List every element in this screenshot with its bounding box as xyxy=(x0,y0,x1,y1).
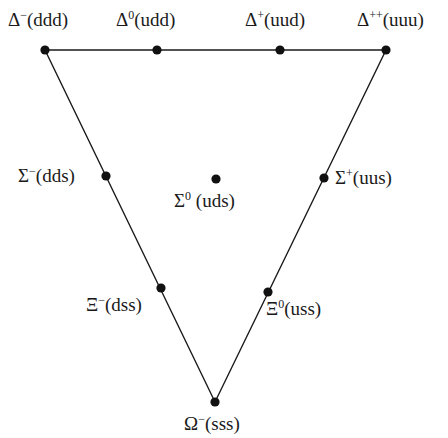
particle-quarks: (dds) xyxy=(36,165,75,187)
delta-plus-label: Δ+(uud) xyxy=(245,8,305,31)
particle-symbol: Δ xyxy=(357,9,369,30)
particle-quarks: (ddd) xyxy=(27,9,68,31)
delta-plusplus-point xyxy=(381,45,390,54)
omega-minus-label: Ω−(sss) xyxy=(184,412,240,435)
particle-quarks: (uuu) xyxy=(383,9,424,31)
particle-symbol: Ω xyxy=(184,413,198,434)
particle-symbol: Σ xyxy=(174,190,185,211)
particle-symbol: Ξ xyxy=(266,298,278,319)
particle-quarks: (uus) xyxy=(353,167,392,189)
particle-charge: ++ xyxy=(369,8,383,22)
particle-symbol: Δ xyxy=(116,9,128,30)
delta-plusplus-label: Δ++(uuu) xyxy=(357,8,424,31)
delta-minus-point xyxy=(40,45,49,54)
xi-zero-label: Ξ0(uss) xyxy=(266,297,321,320)
particle-symbol: Σ xyxy=(335,167,346,188)
sigma-zero-label: Σ0 (uds) xyxy=(174,189,235,212)
xi-minus-label: Ξ−(dss) xyxy=(86,293,142,316)
particle-symbol: Σ xyxy=(18,165,29,186)
omega-minus-point xyxy=(210,397,219,406)
particle-quarks: (dss) xyxy=(105,294,142,316)
xi-zero-point xyxy=(263,287,272,296)
particle-quarks: (uss) xyxy=(284,298,321,320)
sigma-minus-point xyxy=(101,171,110,180)
sigma-zero-point xyxy=(211,174,220,183)
xi-minus-point xyxy=(156,283,165,292)
triangle-outline xyxy=(45,50,386,402)
delta-zero-point xyxy=(152,45,161,54)
particle-symbol: Δ xyxy=(245,9,257,30)
particle-quarks: (sss) xyxy=(205,413,240,435)
particle-labels: Δ−(ddd)Δ0(udd)Δ+(uud)Δ++(uuu)Σ−(dds)Σ0 (… xyxy=(8,8,424,435)
particle-quarks: (uud) xyxy=(264,9,305,31)
sigma-plus-point xyxy=(319,173,328,182)
sigma-minus-label: Σ−(dds) xyxy=(18,164,75,187)
particle-symbol: Ξ xyxy=(86,294,98,315)
delta-plus-point xyxy=(275,45,284,54)
sigma-plus-label: Σ+(uus) xyxy=(335,166,392,189)
particle-symbol: Δ xyxy=(8,9,20,30)
baryon-decuplet-diagram: Δ−(ddd)Δ0(udd)Δ+(uud)Δ++(uuu)Σ−(dds)Σ0 (… xyxy=(0,0,448,438)
particle-points xyxy=(40,45,390,406)
delta-zero-label: Δ0(udd) xyxy=(116,8,175,31)
particle-quarks: (udd) xyxy=(134,9,175,31)
delta-minus-label: Δ−(ddd) xyxy=(8,8,68,31)
particle-quarks: (uds) xyxy=(191,190,235,212)
